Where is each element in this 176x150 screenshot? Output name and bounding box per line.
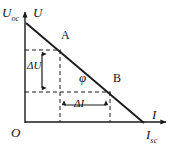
y-axis-label: U	[33, 6, 42, 19]
uoc-subscript: oc	[11, 14, 19, 23]
point-b-label: B	[113, 72, 121, 84]
short-circuit-current-label: Isc	[146, 128, 157, 145]
solar-cell-iv-figure: Uoc U I Isc O A B ΔU ΔI φ	[0, 0, 176, 150]
x-axis-label: I	[152, 108, 156, 121]
open-circuit-voltage-label: Uoc	[2, 6, 19, 23]
delta-i-label: ΔI	[74, 98, 84, 109]
uoc-base: U	[2, 5, 11, 20]
point-a-label: A	[61, 29, 70, 41]
origin-label: O	[11, 126, 20, 139]
delta-u-label: ΔU	[27, 60, 41, 71]
angle-phi-label: φ	[79, 71, 86, 84]
isc-subscript: sc	[150, 136, 157, 145]
